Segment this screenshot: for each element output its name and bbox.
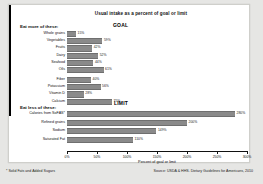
bar-value-label: 200% <box>189 120 198 124</box>
bar-category-label: Whole grains <box>9 31 65 35</box>
bar <box>67 77 91 83</box>
bar-value-label: 110% <box>135 137 143 141</box>
goal-label: GOAL <box>113 22 128 28</box>
bar <box>67 60 93 66</box>
x-tick-label: 100% <box>123 155 132 159</box>
bar-category-label: Fruits <box>9 45 65 49</box>
bar <box>67 45 92 51</box>
source-credit: Source: USDA & HHS. Dietary Guidelines f… <box>154 169 253 173</box>
bar-row: Fruits42% <box>9 45 249 49</box>
bar <box>67 111 235 117</box>
page-background: Usual intake as a percent of goal or lim… <box>0 0 263 184</box>
bar-row: Calcium75% <box>9 99 249 103</box>
bar-row: Sodium149% <box>9 128 249 132</box>
bar-row: Vitamin D28% <box>9 91 249 95</box>
bar-value-label: 149% <box>158 128 167 132</box>
bar <box>67 91 84 97</box>
x-tick <box>97 151 98 154</box>
chart-panel: Usual intake as a percent of goal or lim… <box>8 4 250 163</box>
bar-row: Fiber40% <box>9 77 249 81</box>
x-tick <box>157 151 158 154</box>
bar-category-label: Dairy <box>9 53 65 57</box>
bar-row: Calories from SoFAS*280% <box>9 111 249 115</box>
bar-row: Dairy52% <box>9 53 249 57</box>
x-axis-label: Percent of goal or limit <box>67 160 247 164</box>
x-tick <box>187 151 188 154</box>
x-tick-label: 200% <box>183 155 192 159</box>
x-tick-label: 150% <box>153 155 162 159</box>
bar-category-label: Calories from SoFAS* <box>9 111 65 115</box>
bar-row: Seafood44% <box>9 60 249 64</box>
bar-value-label: 42% <box>94 45 101 49</box>
bar-category-label: Refined grains <box>9 120 65 124</box>
bar <box>67 53 98 59</box>
bar-row: Potassium56% <box>9 84 249 88</box>
bar-category-label: Sodium <box>9 128 65 132</box>
bar <box>67 137 133 143</box>
x-tick <box>127 151 128 154</box>
bar-category-label: Vegetables <box>9 38 65 42</box>
bar <box>67 67 104 73</box>
footnote: * Solid Fats and Added Sugars <box>6 169 55 173</box>
bar-value-label: 52% <box>100 53 107 57</box>
bar-category-label: Oils <box>9 67 65 71</box>
limit-label: LIMIT <box>114 100 128 106</box>
bar-value-label: 28% <box>85 91 92 95</box>
bar <box>67 120 187 126</box>
x-tick <box>67 151 68 154</box>
plot-area: Whole grains15%Vegetables59%Fruits42%Dai… <box>9 5 249 162</box>
x-tick-label: 0% <box>65 155 70 159</box>
x-tick-label: 50% <box>94 155 101 159</box>
bar-value-label: 44% <box>95 60 102 64</box>
bar-value-label: 40% <box>93 77 100 81</box>
bar <box>67 38 102 44</box>
bar-category-label: Potassium <box>9 84 65 88</box>
bar-category-label: Vitamin D <box>9 91 65 95</box>
x-tick-label: 250% <box>213 155 222 159</box>
bar-row: Vegetables59% <box>9 38 249 42</box>
bar-value-label: 59% <box>104 38 111 42</box>
bar-row: Refined grains200% <box>9 120 249 124</box>
bar-value-label: 61% <box>105 67 112 71</box>
bar-value-label: 15% <box>78 31 85 35</box>
bar-category-label: Fiber <box>9 77 65 81</box>
x-tick <box>247 151 248 154</box>
bar-value-label: 56% <box>102 84 109 88</box>
bar <box>67 128 156 134</box>
bar <box>67 31 76 37</box>
bar-row: Whole grains15% <box>9 31 249 35</box>
bar <box>67 84 101 90</box>
x-tick <box>217 151 218 154</box>
bar-category-label: Seafood <box>9 60 65 64</box>
bar-category-label: Saturated Fat <box>9 137 65 141</box>
bar-row: Oils61% <box>9 67 249 71</box>
x-tick-label: 300% <box>243 155 252 159</box>
bar-row: Saturated Fat110% <box>9 137 249 141</box>
bar-category-label: Calcium <box>9 99 65 103</box>
bar-value-label: 280% <box>237 111 246 115</box>
bar <box>67 99 112 105</box>
